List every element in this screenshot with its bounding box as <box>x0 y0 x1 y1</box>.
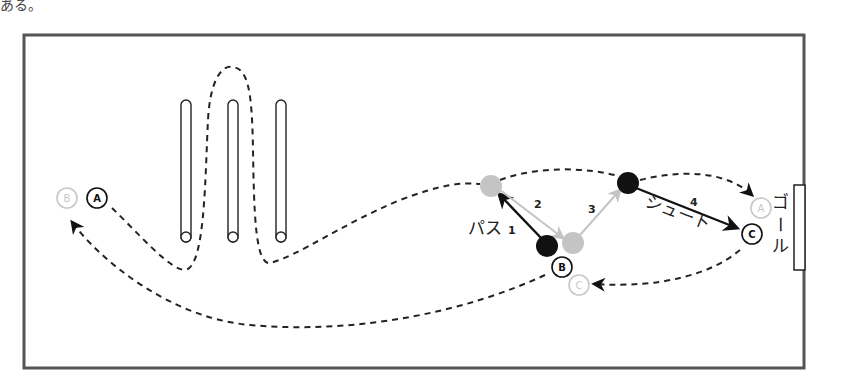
svg-text:A: A <box>758 203 765 214</box>
player-c-ghost: C <box>569 275 589 295</box>
run-path-to-goal <box>640 174 752 195</box>
svg-text:A: A <box>93 193 101 204</box>
pole-2 <box>228 100 238 242</box>
pass-3-arrow <box>580 190 620 235</box>
goal-label-1: ゴ <box>772 192 789 212</box>
dribble-path-a <box>112 67 480 270</box>
player-b-ghost: B <box>57 188 77 208</box>
player-c: C <box>742 224 762 244</box>
svg-text:B: B <box>64 193 71 204</box>
player-a: A <box>87 188 107 208</box>
pole-1 <box>181 100 191 242</box>
step-3-label: 3 <box>588 203 596 216</box>
svg-text:B: B <box>558 262 566 273</box>
shoot-label: シュート <box>643 191 714 234</box>
pole-3 <box>276 100 286 242</box>
goal <box>794 185 805 270</box>
ball-black-2 <box>617 172 639 194</box>
svg-text:C: C <box>748 229 755 240</box>
step-2-label: 2 <box>534 198 542 211</box>
ball-grey-2 <box>562 232 584 254</box>
goal-label-3: ル <box>772 236 789 256</box>
player-a-ghost: A <box>751 198 771 218</box>
pass-number-label: 1 <box>508 224 516 237</box>
player-b: B <box>552 257 572 277</box>
drill-diagram: B A B C A C パス 1 2 3 4 シュート ゴ ー ル <box>0 0 861 389</box>
svg-text:C: C <box>576 280 583 291</box>
goal-label-2: ー <box>770 216 790 233</box>
pass-label: パス <box>468 218 502 238</box>
ball-black-1 <box>536 235 558 257</box>
ball-grey-1 <box>480 175 502 197</box>
field-border <box>24 35 804 368</box>
return-path-c <box>594 250 740 285</box>
run-path-to-receive <box>500 169 618 180</box>
